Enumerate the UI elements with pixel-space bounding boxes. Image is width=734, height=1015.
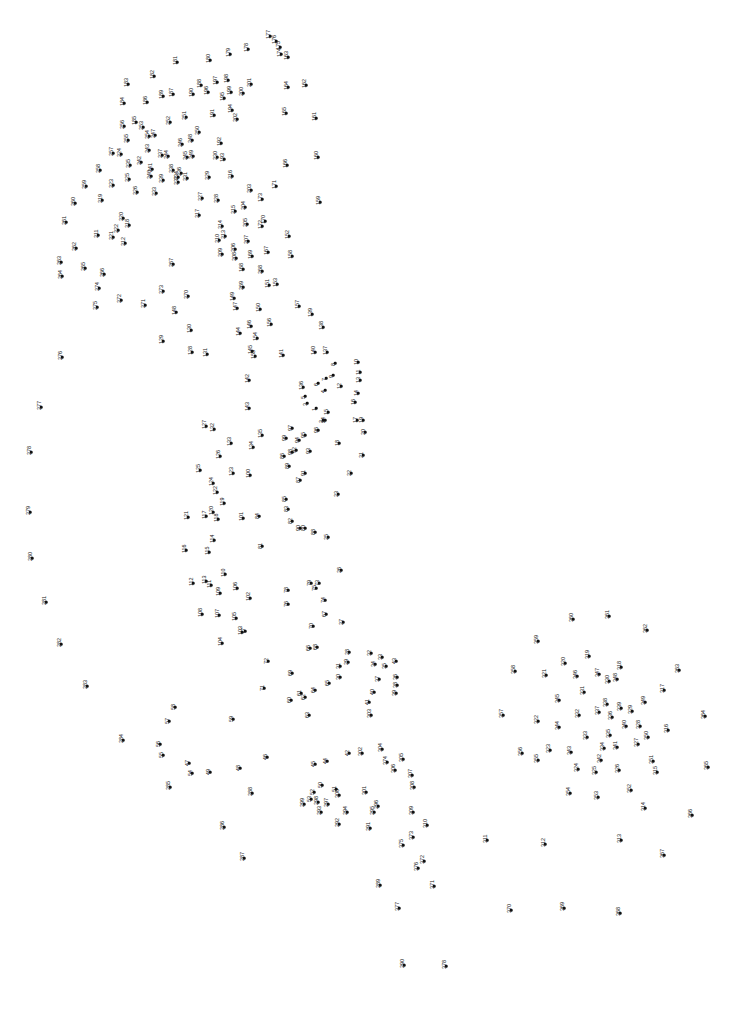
puzzle-dot-number: 195	[220, 92, 225, 101]
puzzle-dot-number: 301	[362, 786, 367, 795]
puzzle-dot-number: 76	[284, 601, 289, 607]
puzzle-dot-number: 334	[600, 742, 605, 751]
puzzle-dot-number: 117	[202, 510, 207, 519]
puzzle-dot-number: 69	[288, 670, 293, 676]
puzzle-dot-number: 44	[323, 758, 328, 764]
puzzle-dot-number: 280	[28, 552, 33, 561]
puzzle-dot-number: 101	[239, 512, 244, 521]
puzzle-dot-number: 171	[272, 180, 277, 189]
puzzle-dot-number: 352	[627, 784, 632, 793]
puzzle-dot-number: 328	[636, 720, 641, 729]
puzzle-dot-number: 376	[414, 862, 419, 871]
puzzle-dot-number: 79	[307, 580, 312, 586]
puzzle-dot-number: 75	[312, 585, 317, 591]
puzzle-dot-number: 124	[209, 477, 214, 486]
puzzle-dot-number: 8	[331, 363, 336, 366]
puzzle-dot-number: 89	[285, 463, 290, 469]
puzzle-dot-number: 48	[236, 765, 241, 771]
puzzle-dot-number: 332	[575, 709, 580, 718]
puzzle-dot-number: 276	[58, 351, 63, 360]
puzzle-dot-number: 102	[246, 592, 251, 601]
puzzle-dot-number: 342	[597, 754, 602, 763]
puzzle-dot-number: 224	[117, 148, 122, 157]
puzzle-dot-number: 50	[318, 782, 323, 788]
puzzle-dot-number: 345	[555, 694, 560, 703]
puzzle-dot-number: 184	[120, 97, 125, 106]
puzzle-dot-number: 365	[704, 761, 709, 770]
puzzle-dot-number: 95	[301, 432, 306, 438]
puzzle-dot-number: 289	[376, 879, 381, 888]
puzzle-dot-number: 1	[312, 408, 317, 411]
puzzle-dot-number: 286	[220, 821, 225, 830]
puzzle-dot-number: 29	[344, 659, 349, 665]
puzzle-dot-number: 353	[594, 791, 599, 800]
puzzle-dot-number: 152	[285, 230, 290, 239]
puzzle-dot-number: 23	[334, 491, 339, 497]
puzzle-dot-number: 348	[613, 673, 618, 682]
puzzle-dot-number: 362	[643, 624, 648, 633]
puzzle-dot-number: 132	[210, 423, 215, 432]
puzzle-dot-number: 214	[218, 220, 223, 229]
puzzle-dot-number: 242	[137, 156, 142, 165]
puzzle-dot-number: 355	[534, 754, 539, 763]
puzzle-dot-number: 151	[265, 279, 270, 288]
puzzle-dot-number: 354	[566, 787, 571, 796]
puzzle-dot-number: 190	[189, 88, 194, 97]
puzzle-dot-number: 282	[57, 638, 62, 647]
puzzle-dot-number: 13	[356, 377, 361, 383]
puzzle-dot-number: 179	[226, 48, 231, 57]
puzzle-dot-number: 38	[393, 682, 398, 688]
puzzle-dot-number: 176	[272, 35, 277, 44]
puzzle-dot-number: 250	[195, 126, 200, 135]
puzzle-dot-number: 337	[595, 706, 600, 715]
puzzle-dot-number: 141	[279, 349, 284, 358]
puzzle-dot-number: 82	[288, 518, 293, 524]
puzzle-dot-number: 258	[96, 164, 101, 173]
puzzle-dot-number: 281	[42, 596, 47, 605]
puzzle-dot-number: 331	[580, 686, 585, 695]
puzzle-dot-number: 316	[664, 724, 669, 733]
puzzle-dot-number: 364	[701, 710, 706, 719]
puzzle-dot-number: 298	[314, 796, 319, 805]
puzzle-dot-number: 271	[141, 299, 146, 308]
puzzle-dot-number: 137	[323, 346, 328, 355]
puzzle-dot-number: 39	[392, 690, 397, 696]
puzzle-dot-number: 344	[555, 721, 560, 730]
puzzle-dot-number: 201	[247, 78, 252, 87]
puzzle-dot-number: 16	[351, 399, 356, 405]
puzzle-dot-number: 189	[159, 90, 164, 99]
puzzle-dot-number: 192	[217, 137, 222, 146]
puzzle-dot-number: 30	[336, 674, 341, 680]
puzzle-dot-number: 58	[171, 704, 176, 710]
puzzle-dot-number: 46	[263, 754, 268, 760]
puzzle-dot-number: 202	[233, 113, 238, 122]
puzzle-dot-number: 216	[228, 170, 233, 179]
puzzle-dot-number: 32	[367, 650, 372, 656]
puzzle-dot-number: 81	[258, 543, 263, 549]
puzzle-dot-number: 369	[560, 902, 565, 911]
puzzle-dot-number: 147	[233, 302, 238, 311]
puzzle-dot-number: 165	[282, 107, 287, 116]
puzzle-dot-number: 56	[156, 741, 161, 747]
puzzle-dot-number: 86	[280, 453, 285, 459]
puzzle-dot-number: 375	[399, 839, 404, 848]
puzzle-dot-number: 329	[628, 705, 633, 714]
puzzle-dot-number: 138	[319, 321, 324, 330]
puzzle-dot-number: 333	[583, 731, 588, 740]
puzzle-dot-number: 296	[374, 800, 379, 809]
puzzle-dot-number: 217	[195, 209, 200, 218]
puzzle-dot-number: 320	[561, 657, 566, 666]
puzzle-dot-number: 268	[258, 265, 263, 274]
puzzle-dot-number: 303	[367, 709, 372, 718]
puzzle-dot-number: 15	[324, 409, 329, 415]
puzzle-dot-number: 20	[361, 429, 366, 435]
puzzle-dot-number: 107	[215, 609, 220, 618]
puzzle-dot-number: 349	[641, 696, 646, 705]
puzzle-dot-number: 212	[121, 237, 126, 246]
puzzle-dot-number: 156	[267, 318, 272, 327]
puzzle-dot-number: 235	[126, 159, 131, 168]
puzzle-dot-number: 238	[169, 164, 174, 173]
puzzle-dot-number: 57	[165, 718, 170, 724]
puzzle-dot-number: 193	[220, 153, 225, 162]
puzzle-dot-number: 167	[264, 246, 269, 255]
